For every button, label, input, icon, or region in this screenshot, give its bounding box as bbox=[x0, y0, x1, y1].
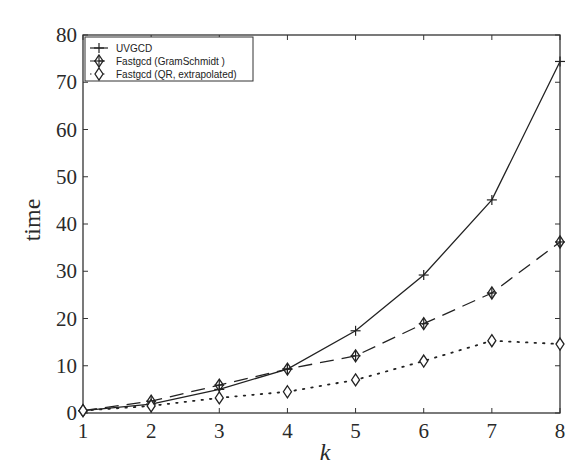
y-tick-label: 80 bbox=[56, 23, 77, 47]
data-point bbox=[556, 338, 564, 350]
y-tick-label: 40 bbox=[56, 212, 77, 236]
line-chart: 01020304050607080 12345678 time k UVGCDF… bbox=[0, 0, 584, 474]
series-fastgcd-gramschmidt bbox=[78, 236, 565, 417]
data-point bbox=[488, 335, 496, 347]
legend: UVGCDFastgcd (GramSchmidt )Fastgcd (QR, … bbox=[85, 37, 253, 81]
y-tick-label: 60 bbox=[56, 118, 77, 142]
x-axis: 12345678 bbox=[78, 35, 566, 443]
x-tick-label: 4 bbox=[282, 419, 293, 443]
y-tick-label: 70 bbox=[56, 70, 77, 94]
series-fastgcd-qr-extrapolated bbox=[79, 335, 564, 417]
x-tick-label: 8 bbox=[555, 419, 566, 443]
data-point bbox=[555, 236, 565, 248]
plot-frame bbox=[83, 35, 560, 413]
data-point bbox=[282, 363, 292, 375]
series-uvgcd bbox=[78, 56, 565, 415]
data-point bbox=[555, 56, 565, 66]
data-point bbox=[352, 374, 360, 386]
y-tick-label: 30 bbox=[56, 259, 77, 283]
series-layer bbox=[78, 56, 565, 416]
x-tick-label: 6 bbox=[418, 419, 429, 443]
y-tick-label: 50 bbox=[56, 165, 77, 189]
data-point bbox=[79, 405, 87, 417]
x-tick-label: 5 bbox=[350, 419, 361, 443]
data-point bbox=[283, 386, 291, 398]
y-tick-label: 10 bbox=[56, 354, 77, 378]
legend-item: UVGCD bbox=[90, 43, 152, 54]
x-tick-label: 3 bbox=[214, 419, 225, 443]
x-tick-label: 7 bbox=[487, 419, 498, 443]
legend-label: Fastgcd (GramSchmidt ) bbox=[116, 56, 225, 67]
data-point bbox=[420, 355, 428, 367]
y-tick-label: 20 bbox=[56, 307, 77, 331]
data-point bbox=[487, 287, 497, 299]
legend-label: UVGCD bbox=[116, 43, 152, 54]
y-axis-label: time bbox=[19, 199, 45, 242]
data-point bbox=[419, 318, 429, 330]
x-tick-label: 1 bbox=[78, 419, 89, 443]
x-axis-label: k bbox=[320, 439, 331, 465]
data-point bbox=[215, 392, 223, 404]
legend-label: Fastgcd (QR, extrapolated) bbox=[116, 69, 237, 80]
y-tick-label: 0 bbox=[67, 401, 78, 425]
x-tick-label: 2 bbox=[146, 419, 157, 443]
data-point bbox=[351, 350, 361, 362]
